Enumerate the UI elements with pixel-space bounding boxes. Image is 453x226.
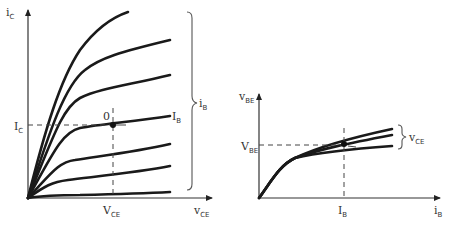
ic-axis-label: iC bbox=[6, 6, 15, 21]
ib-tick-label: IB bbox=[338, 204, 347, 219]
ib-curve-1 bbox=[28, 192, 170, 198]
input-characteristics-plot: vBE iB VBE IB vCE bbox=[238, 90, 443, 219]
q-point-label: 0 bbox=[103, 110, 110, 123]
vce-curve-mid bbox=[259, 135, 392, 198]
vce-curve-low bbox=[259, 146, 392, 198]
ib-curve-label: IB bbox=[172, 110, 181, 125]
vce-axis-label: vCE bbox=[193, 204, 210, 219]
q-point-input bbox=[341, 141, 347, 147]
q-point-input-tick bbox=[348, 146, 356, 147]
output-characteristics-plot: iC vCE 0 IC VCE IB iB bbox=[6, 6, 212, 219]
vce-family-brace bbox=[398, 125, 406, 149]
ib-axis-label: iB bbox=[434, 204, 443, 219]
vce-brace-label: vCE bbox=[408, 131, 425, 146]
ib-curve-3 bbox=[28, 144, 170, 198]
q-point bbox=[110, 122, 116, 128]
ic-tick-label: IC bbox=[14, 120, 23, 135]
ib-brace-label: iB bbox=[199, 97, 208, 112]
vbe-axis-label: vBE bbox=[238, 90, 254, 105]
vce-tick-label: VCE bbox=[102, 204, 120, 219]
vbe-tick-label: VBE bbox=[240, 140, 258, 155]
bjt-characteristics-diagram: iC vCE 0 IC VCE IB iB vBE iB VBE bbox=[0, 0, 453, 226]
ib-family-brace bbox=[187, 12, 197, 190]
